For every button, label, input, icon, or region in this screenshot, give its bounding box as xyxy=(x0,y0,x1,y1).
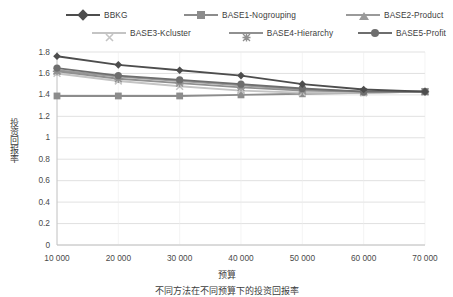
x-axis-tick-label: 40 000 xyxy=(211,253,271,263)
x-axis-tick-label: 70 000 xyxy=(395,253,453,263)
x-axis-tick-label: 30 000 xyxy=(150,253,210,263)
x-axis-title: 预算 xyxy=(0,268,453,281)
x-axis-tick-label: 10 000 xyxy=(27,253,87,263)
x-axis-tick-label: 60 000 xyxy=(334,253,394,263)
x-axis-tick-label: 50 000 xyxy=(272,253,332,263)
x-axis-tick-label: 20 000 xyxy=(88,253,148,263)
figure-caption: 不同方法在不同预算下的投资回报率 xyxy=(0,284,453,297)
